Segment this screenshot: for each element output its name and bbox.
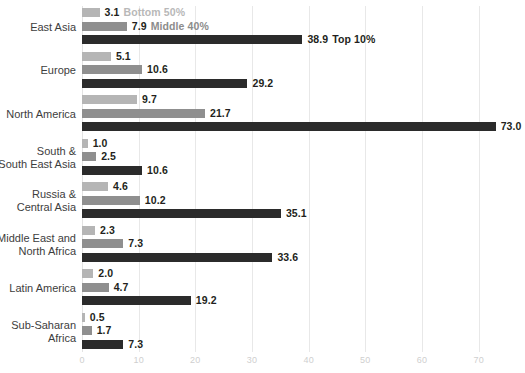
bar-value-label: 4.7 xyxy=(114,281,129,294)
bar-value-label: 7.3 xyxy=(128,237,143,250)
bar-middle-40[interactable] xyxy=(82,22,127,31)
bar-top-10[interactable] xyxy=(82,122,496,131)
bar-value-label: 19.2 xyxy=(196,294,217,307)
bar-value-label: 2.5 xyxy=(101,150,116,163)
bar-top-10[interactable] xyxy=(82,296,191,305)
bar-value-label: 9.7 xyxy=(142,93,157,106)
bar-value-label: 10.6 xyxy=(147,63,168,76)
bar-value-label: 2.0 xyxy=(98,267,113,280)
bar-value-label: 7.3 xyxy=(128,338,143,351)
bar-value-label: 10.6 xyxy=(147,164,168,177)
legend-item-middle-40: Middle 40% xyxy=(151,20,209,32)
x-tick-label-40: 40 xyxy=(303,355,313,365)
x-tick-label-50: 50 xyxy=(360,355,370,365)
x-tick-label-70: 70 xyxy=(473,355,483,365)
bar-top-10[interactable] xyxy=(82,209,281,218)
bar-group: 2.04.719.2 xyxy=(82,269,507,310)
bar-value-label: 7.9Middle 40% xyxy=(132,20,209,33)
bar-bottom-50[interactable] xyxy=(82,182,108,191)
bar-top-10[interactable] xyxy=(82,340,123,349)
bar-group: 2.37.333.6 xyxy=(82,226,507,267)
bar-value-label: 21.7 xyxy=(210,107,231,120)
bar-top-10[interactable] xyxy=(82,79,247,88)
bar-value-label: 29.2 xyxy=(252,77,273,90)
bar-bottom-50[interactable] xyxy=(82,269,93,278)
bar-value-label: 2.3 xyxy=(100,224,115,237)
bar-value-label: 4.6 xyxy=(113,180,128,193)
bar-group: 4.610.235.1 xyxy=(82,182,507,223)
plot-area: 3.1Bottom 50%7.9Middle 40%38.9Top 10%5.1… xyxy=(82,0,507,352)
bar-bottom-50[interactable] xyxy=(82,95,137,104)
legend-item-top-10: Top 10% xyxy=(332,33,375,45)
bar-middle-40[interactable] xyxy=(82,239,123,248)
x-tick-label-20: 20 xyxy=(190,355,200,365)
bar-bottom-50[interactable] xyxy=(82,8,100,17)
x-tick-label-30: 30 xyxy=(247,355,257,365)
bar-value-label: 35.1 xyxy=(286,207,307,220)
bar-group: 5.110.629.2 xyxy=(82,52,507,93)
bar-value-label: 33.6 xyxy=(277,251,298,264)
bar-middle-40[interactable] xyxy=(82,196,140,205)
category-label-middle-east-and-north-africa: Middle East and North Africa xyxy=(0,232,76,258)
bar-value-label: 3.1Bottom 50% xyxy=(105,6,186,19)
x-tick-label-0: 0 xyxy=(79,355,84,365)
category-label-north-america: North America xyxy=(0,108,76,121)
bar-bottom-50[interactable] xyxy=(82,313,85,322)
bar-bottom-50[interactable] xyxy=(82,139,88,148)
bar-group: 9.721.773.0 xyxy=(82,95,507,136)
category-label-europe: Europe xyxy=(0,64,76,77)
bar-top-10[interactable] xyxy=(82,253,272,262)
bar-value-label: 1.0 xyxy=(93,137,108,150)
x-axis-baseline xyxy=(82,352,507,353)
bar-value-label: 5.1 xyxy=(116,50,131,63)
bar-middle-40[interactable] xyxy=(82,283,109,292)
x-tick-label-60: 60 xyxy=(417,355,427,365)
bar-middle-40[interactable] xyxy=(82,65,142,74)
bar-value-label: 10.2 xyxy=(145,194,166,207)
category-label-russia-central-asia: Russia & Central Asia xyxy=(0,188,76,214)
bar-middle-40[interactable] xyxy=(82,152,96,161)
bar-group: 1.02.510.6 xyxy=(82,139,507,180)
bar-value-label: 1.7 xyxy=(97,324,112,337)
category-label-sub-saharan-africa: Sub-Saharan Africa xyxy=(0,319,76,345)
bar-middle-40[interactable] xyxy=(82,109,205,118)
bar-middle-40[interactable] xyxy=(82,326,92,335)
bar-value-label: 73.0 xyxy=(501,120,522,133)
bar-top-10[interactable] xyxy=(82,35,302,44)
bar-group: 3.1Bottom 50%7.9Middle 40%38.9Top 10% xyxy=(82,8,507,49)
x-tick-label-10: 10 xyxy=(133,355,143,365)
category-label-latin-america: Latin America xyxy=(0,282,76,295)
bar-value-label: 38.9Top 10% xyxy=(307,33,375,46)
bar-group: 0.51.77.3 xyxy=(82,313,507,354)
bar-bottom-50[interactable] xyxy=(82,226,95,235)
bar-value-label: 0.5 xyxy=(90,311,105,324)
bar-top-10[interactable] xyxy=(82,166,142,175)
legend-item-bottom-50: Bottom 50% xyxy=(123,6,185,18)
chart-root: 3.1Bottom 50%7.9Middle 40%38.9Top 10%5.1… xyxy=(0,0,525,373)
bar-bottom-50[interactable] xyxy=(82,52,111,61)
category-label-east-asia: East Asia xyxy=(0,21,76,34)
category-label-south-south-east-asia: South & South East Asia xyxy=(0,145,76,171)
